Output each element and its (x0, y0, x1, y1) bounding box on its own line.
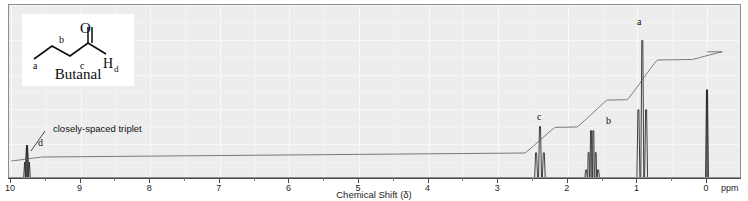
peak-label-c: c (537, 111, 541, 122)
annotation-closely-spaced-triplet: closely-spaced triplet (53, 123, 142, 134)
x-axis-minor-tick (254, 178, 255, 181)
x-axis-title: Chemical Shift (δ) (0, 189, 748, 200)
x-axis-minor-tick (532, 178, 533, 181)
carbon-chain-bonds (34, 43, 106, 59)
peak-label-b: b (606, 115, 611, 126)
butanal-skeleton-svg (22, 14, 134, 66)
x-axis-minor-tick (323, 178, 324, 181)
spectrum-plot-area: a b c O H d Butanal a b c d closely-spac… (8, 4, 741, 178)
x-axis-minor-tick (462, 178, 463, 181)
x-axis-minor-tick (45, 178, 46, 181)
compound-name: Butanal (22, 66, 134, 83)
x-axis-minor-tick (602, 178, 603, 181)
x-axis-minor-tick (393, 178, 394, 181)
structure-label-oxygen: O (80, 20, 91, 37)
x-axis-line (8, 178, 741, 179)
peak-label-a: a (637, 16, 641, 27)
nmr-spectrum-figure: a b c O H d Butanal a b c d closely-spac… (0, 0, 748, 201)
structure-inset: a b c O H d Butanal (22, 14, 134, 86)
x-axis-minor-tick (671, 178, 672, 181)
x-axis-minor-tick (184, 178, 185, 181)
structure-label-b: b (59, 34, 64, 45)
peak-label-d: d (38, 137, 43, 148)
x-axis-minor-tick (114, 178, 115, 181)
